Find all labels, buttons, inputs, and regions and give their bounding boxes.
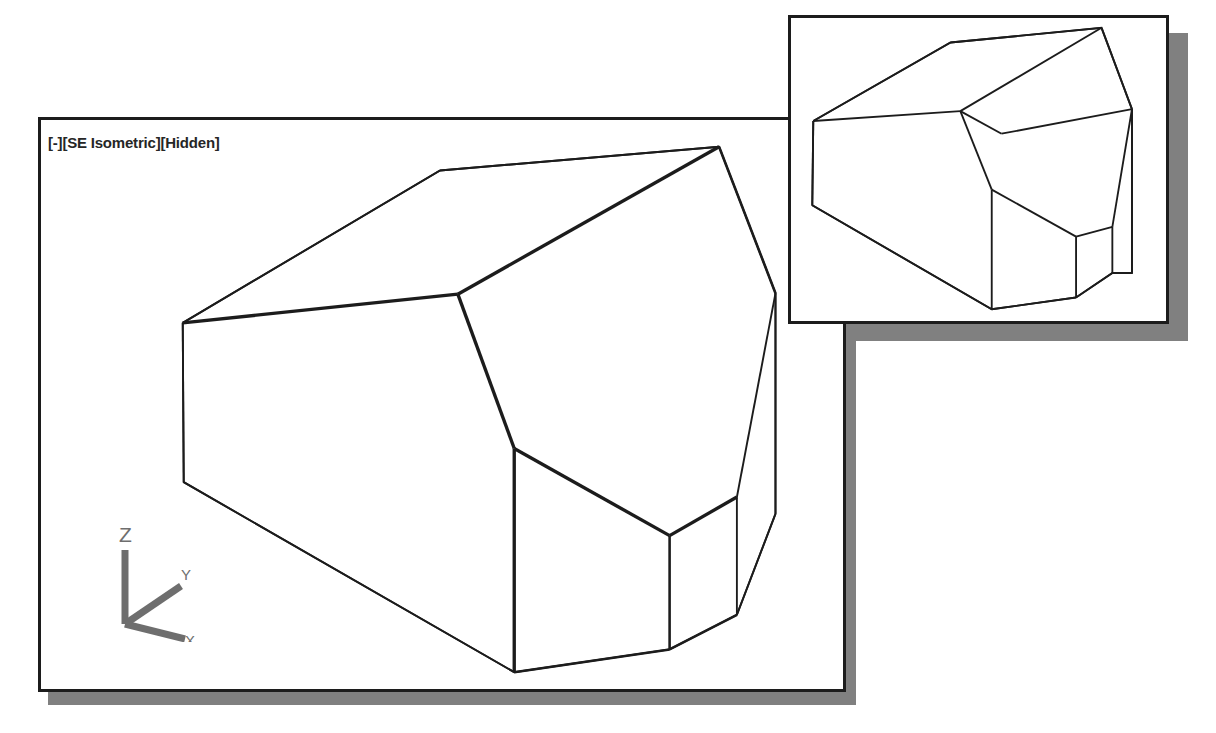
ucs-axis-z-label: Z bbox=[119, 523, 132, 546]
ucs-icon[interactable]: Z Y X bbox=[103, 512, 223, 642]
edge-top-back[interactable] bbox=[440, 147, 719, 171]
detail-edge-left-vertical-silhouette[interactable] bbox=[812, 121, 813, 205]
viewport-label[interactable]: [-][SE Isometric][Hidden] bbox=[48, 134, 220, 151]
edge-left-vertical-silhouette[interactable] bbox=[183, 323, 184, 482]
detail-edge-top-right-chamfer[interactable] bbox=[1102, 28, 1132, 109]
edge-front-left-fold[interactable] bbox=[458, 294, 514, 448]
ucs-axis-x-line bbox=[125, 624, 185, 639]
solid-silhouette-outline[interactable] bbox=[183, 147, 776, 672]
edge-top-ridge-right[interactable] bbox=[458, 147, 719, 294]
edge-bottom-front-left[interactable] bbox=[514, 649, 669, 672]
inset-viewport[interactable] bbox=[788, 15, 1169, 324]
edge-front-lower-ridge-right[interactable] bbox=[670, 497, 737, 536]
edge-bottom-right-chamfer[interactable] bbox=[737, 514, 776, 615]
ucs-axis-y-line bbox=[125, 586, 181, 624]
detail-edge-lower-ridge-right[interactable] bbox=[1076, 227, 1112, 237]
detail-edge-center-chamfer[interactable] bbox=[960, 111, 1001, 134]
edge-right-upper-chamfer[interactable] bbox=[719, 147, 775, 293]
detail-edge-top-ridge-left[interactable] bbox=[813, 111, 960, 121]
edge-bottom-front-right[interactable] bbox=[670, 615, 737, 650]
detail-edge-chamfer-to-right[interactable] bbox=[1002, 109, 1132, 134]
detail-edge-bottom-front-left[interactable] bbox=[992, 297, 1076, 309]
detail-edge-top-left-diagonal[interactable] bbox=[813, 43, 950, 121]
polyhedral-solid-3d[interactable] bbox=[183, 147, 776, 672]
detail-silhouette-outline[interactable] bbox=[812, 28, 1132, 309]
ucs-axis-x-label: X bbox=[185, 632, 195, 642]
detail-edge-lower-ridge-left[interactable] bbox=[992, 190, 1076, 237]
edge-bottom-left-diagonal[interactable] bbox=[184, 482, 515, 672]
detail-edge-bottom-left-diagonal[interactable] bbox=[812, 205, 991, 309]
detail-edge-right-fold[interactable] bbox=[1112, 109, 1132, 227]
ucs-axis-y-label: Y bbox=[181, 566, 191, 583]
detail-edge-bottom-front-right[interactable] bbox=[1076, 273, 1112, 298]
polyhedral-solid-3d-detail[interactable] bbox=[812, 28, 1132, 309]
main-viewport[interactable]: [-][SE Isometric][Hidden] bbox=[38, 117, 846, 692]
inset-viewport-drawing-canvas[interactable] bbox=[791, 18, 1166, 321]
detail-edge-center-fold[interactable] bbox=[960, 111, 991, 189]
edge-right-chamfer-fold[interactable] bbox=[737, 293, 776, 497]
edge-front-lower-ridge-left[interactable] bbox=[514, 449, 669, 536]
